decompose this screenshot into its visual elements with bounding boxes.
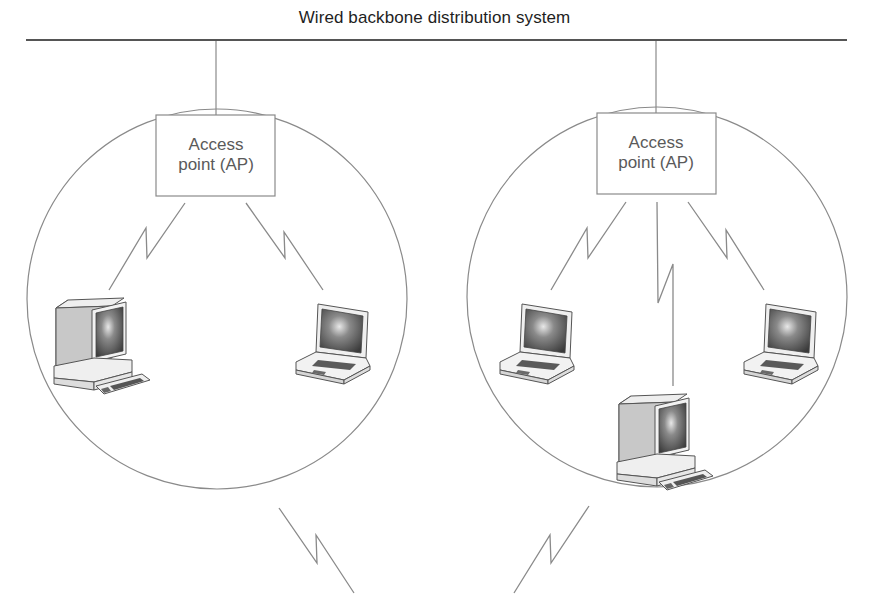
access-point-label-left: Access point (AP): [158, 135, 274, 175]
ap-label-line2: point (AP): [158, 155, 274, 175]
laptop-icon: [744, 304, 818, 384]
wireless-link-icon: [514, 506, 589, 593]
wireless-link-icon: [657, 202, 673, 386]
desktop-computer-icon: [617, 394, 713, 490]
laptop-icon: [500, 304, 574, 384]
ap-label-line2: point (AP): [598, 153, 714, 173]
wireless-link-icon: [551, 202, 626, 290]
laptop-icon: [296, 304, 370, 384]
diagram-canvas: [0, 0, 869, 607]
ap-label-line1: Access: [598, 133, 714, 153]
wireless-link-icon: [279, 508, 354, 593]
wireless-lan-diagram: Wired backbone distribution system: [0, 0, 869, 607]
wireless-link-icon: [688, 202, 764, 290]
access-point-label-right: Access point (AP): [598, 133, 714, 173]
wireless-link-icon: [246, 203, 323, 290]
wireless-link-icon: [109, 203, 185, 290]
desktop-computer-icon: [54, 298, 150, 394]
ap-label-line1: Access: [158, 135, 274, 155]
